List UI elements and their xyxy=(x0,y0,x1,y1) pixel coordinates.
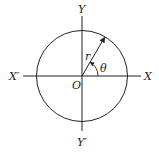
angle-arc xyxy=(91,63,99,77)
label-radius: r xyxy=(85,50,91,63)
label-y-prime: Y′ xyxy=(77,136,87,149)
label-x: X xyxy=(143,70,153,83)
polar-diagram: Y Y′ X′ X O r θ xyxy=(0,0,159,159)
label-x-prime: X′ xyxy=(8,70,20,83)
label-theta: θ xyxy=(100,62,107,75)
label-y: Y xyxy=(78,3,87,16)
label-origin: O xyxy=(72,79,81,92)
